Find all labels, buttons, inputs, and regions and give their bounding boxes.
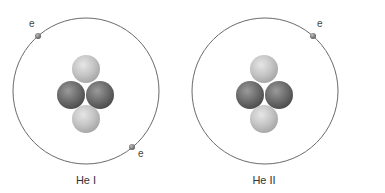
electron-label: e xyxy=(138,149,144,159)
neutron-right xyxy=(265,81,293,109)
electron-label: e xyxy=(29,19,35,29)
neutron-left xyxy=(236,81,264,109)
proton-bottom xyxy=(72,105,100,133)
nucleus xyxy=(236,55,293,133)
atom-caption-he-i: He I xyxy=(76,175,96,186)
orbit-ring xyxy=(13,18,159,164)
proton-top xyxy=(72,55,100,83)
nucleus xyxy=(57,55,114,133)
neutron-left xyxy=(57,81,85,109)
proton-bottom xyxy=(250,105,278,133)
electron-1 xyxy=(310,33,316,39)
electron-1 xyxy=(35,33,41,39)
neutron-right xyxy=(86,81,114,109)
atom-caption-he-ii: He II xyxy=(252,175,275,186)
atom-he-i xyxy=(13,18,159,164)
helium-diagram xyxy=(0,0,385,193)
electron-2 xyxy=(129,144,135,150)
electron-label: e xyxy=(317,19,323,29)
orbit-ring xyxy=(192,18,338,164)
proton-top xyxy=(250,55,278,83)
atom-he-ii xyxy=(192,18,338,164)
